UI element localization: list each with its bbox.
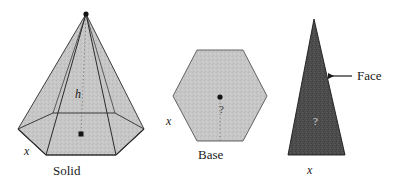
base-regular-hexagon [173, 50, 267, 141]
face-caption: Face [357, 69, 382, 82]
face-base-label-x: x [307, 164, 312, 176]
base-center-dot [79, 132, 84, 137]
face-isosceles-triangle [288, 19, 352, 155]
base-apothem-question-mark: ? [219, 104, 224, 115]
solid-caption: Solid [53, 164, 80, 177]
hexagon-center-dot [217, 94, 222, 99]
solid-height-label-h: h [75, 88, 81, 100]
base-caption: Base [198, 148, 223, 161]
solid-edge-label-x: x [24, 145, 29, 157]
apex-vertex-dot [83, 11, 88, 16]
base-edge-label-x: x [166, 115, 171, 127]
triangle-outline [288, 19, 345, 155]
solid-hexagonal-pyramid [18, 11, 144, 155]
face-slant-question-mark: ? [313, 116, 318, 127]
